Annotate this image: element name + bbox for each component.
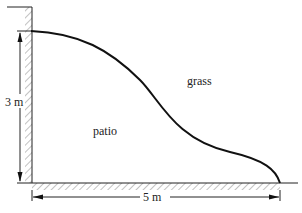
width-label: 5 m — [143, 191, 161, 203]
grass-label: grass — [187, 75, 212, 87]
arrow-up-icon — [18, 32, 23, 42]
arrow-left-icon — [33, 195, 43, 200]
bottom-wall — [17, 183, 298, 190]
arrow-right-icon — [269, 195, 279, 200]
boundary-curve — [31, 31, 280, 183]
arrow-down-icon — [18, 172, 23, 182]
patio-diagram — [0, 0, 302, 213]
height-label: 3 m — [5, 96, 23, 108]
patio-label: patio — [93, 125, 117, 137]
